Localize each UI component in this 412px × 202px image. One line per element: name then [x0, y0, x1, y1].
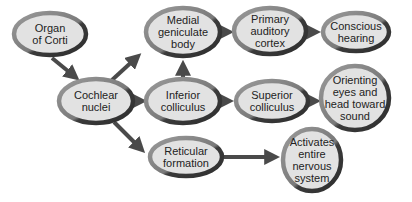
- node-label: Conscious hearing: [330, 20, 381, 44]
- node-label: Reticular formation: [163, 145, 209, 169]
- node-superior-colliculus: Superior colliculus: [236, 81, 308, 121]
- node-label: Organ of Corti: [32, 22, 67, 46]
- node-primary-auditory-cortex: Primary auditory cortex: [234, 8, 306, 54]
- node-label: Medial geniculate body: [158, 14, 208, 50]
- node-cochlear-nuclei: Cochlear nuclei: [59, 79, 133, 123]
- node-label: Activates entire nervous system: [290, 136, 335, 184]
- node-activates: Activates entire nervous system: [283, 129, 341, 191]
- node-label: Primary auditory cortex: [250, 13, 289, 49]
- edge-corti-to-cochlear: [52, 58, 74, 76]
- node-organ-of-corti: Organ of Corti: [14, 13, 86, 55]
- edge-cochlear-to-medial: [112, 58, 136, 80]
- node-medial-geniculate: Medial geniculate body: [146, 8, 220, 56]
- node-label: Superior colliculus: [250, 89, 295, 113]
- node-label: Inferior colliculus: [161, 89, 206, 113]
- edge-cochlear-to-reticular: [114, 122, 140, 148]
- node-reticular-formation: Reticular formation: [150, 138, 222, 176]
- node-orienting: Orienting eyes and head toward sound: [321, 66, 389, 130]
- node-conscious-hearing: Conscious hearing: [323, 13, 389, 51]
- node-label: Cochlear nuclei: [74, 89, 118, 113]
- node-inferior-colliculus: Inferior colliculus: [146, 79, 220, 123]
- node-label: Orienting eyes and head toward sound: [325, 74, 386, 122]
